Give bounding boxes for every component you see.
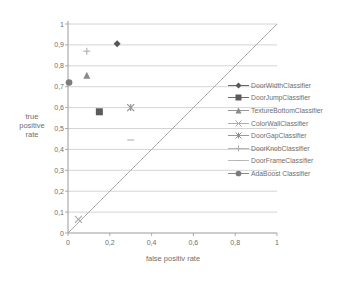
data-point-DoorWidthClassifier [114,40,121,47]
legend-item: DoorJumpClassifier [228,92,323,105]
x-tick-label: 0,6 [183,239,203,246]
legend-marker-dash-icon [228,156,249,165]
chart-legend: DoorWidthClassifierDoorJumpClassifierTex… [228,79,323,180]
legend-item: DoorFrameClassifier [228,155,323,168]
x-axis-title: false positiv rate [103,254,243,263]
y-axis-title-line: positive [11,121,53,130]
x-tick-label: 0,2 [100,239,120,246]
x-tick-label: 0,4 [142,239,162,246]
y-tick-label: 0,2 [48,188,64,195]
y-axis-title-line: rate [11,130,53,139]
chart-canvas: truepositiverate false positiv rate 00,1… [0,0,338,283]
legend-marker-square-icon [228,93,249,102]
legend-marker-triangle-icon [228,106,249,115]
legend-item: AdaBoost Classifier [228,167,323,180]
data-point-AdaBoost-Classifier [66,79,73,86]
y-tick-label: 0,8 [48,62,64,69]
legend-marker-x-icon [228,119,249,128]
y-tick-label: 0,9 [48,41,64,48]
legend-label: DoorJumpClassifier [251,94,310,101]
y-axis-title: truepositiverate [11,112,53,139]
legend-label: DoorGapClassifier [251,132,307,139]
legend-label: AdaBoost Classifier [251,170,310,177]
legend-label: TextureBottomClassifier [251,107,323,114]
data-point-DoorJumpClassifier [96,108,103,115]
legend-marker-diamond-icon [228,81,249,90]
y-tick-label: 0 [48,230,64,237]
legend-label: ColorWallClassifier [251,120,308,127]
x-tick-label: 1 [267,239,287,246]
y-tick-label: 0,7 [48,83,64,90]
legend-item: TextureBottomClassifier [228,104,323,117]
y-tick-label: 0,5 [48,125,64,132]
legend-marker-star-icon [228,131,249,140]
data-point-DoorKnobClassifier [83,48,90,55]
x-tick-label: 0,8 [225,239,245,246]
y-tick-label: 0,6 [48,104,64,111]
y-tick-label: 0,1 [48,209,64,216]
legend-label: DoorKnobClassifier [251,145,310,152]
legend-label: DoorWidthClassifier [251,82,311,89]
legend-marker-plus-icon [228,144,249,153]
legend-item: DoorWidthClassifier [228,79,323,92]
legend-item: DoorKnobClassifier [228,142,323,155]
y-axis-title-line: true [11,112,53,121]
y-tick-label: 0,4 [48,146,64,153]
data-point-TextureBottomClassifier [83,72,90,79]
legend-label: DoorFrameClassifier [251,157,313,164]
x-tick-label: 0 [58,239,78,246]
legend-marker-circle-icon [228,169,249,178]
legend-item: DoorGapClassifier [228,129,323,142]
y-tick-label: 1 [48,21,64,28]
y-tick-label: 0,3 [48,167,64,174]
data-point-ColorWallClassifier [75,216,82,223]
legend-item: ColorWallClassifier [228,117,323,130]
